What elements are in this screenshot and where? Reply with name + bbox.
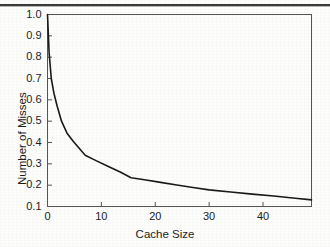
chart-figure: 0.10.20.30.40.50.60.70.80.91.0 010203040…	[0, 0, 330, 247]
x-axis-title: Cache Size	[0, 228, 330, 240]
y-tick-label: 1.0	[6, 9, 42, 20]
y-tick-label: 0.9	[6, 30, 42, 41]
x-tick-label: 30	[189, 211, 229, 222]
x-tick-label: 10	[81, 211, 121, 222]
data-line-misses	[48, 15, 312, 200]
y-tick-label: 0.7	[6, 73, 42, 84]
y-axis-title: Number of Misses	[16, 92, 28, 185]
x-tick-label: 40	[243, 211, 283, 222]
x-tick-label: 20	[135, 211, 175, 222]
axis-ticks	[48, 15, 264, 207]
y-tick-label: 0.8	[6, 51, 42, 62]
plot-frame	[48, 15, 312, 207]
x-tick-label: 0	[28, 211, 68, 222]
